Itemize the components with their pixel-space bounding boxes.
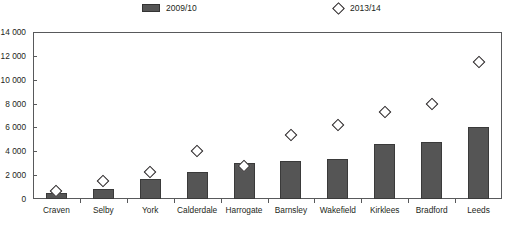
x-tick-label: Wakefield xyxy=(320,205,356,215)
diamond-marker-leeds xyxy=(472,55,485,68)
x-tick-mark xyxy=(127,199,128,203)
diamond-marker-icon xyxy=(332,2,345,15)
legend-entry-2009-10: 2009/10 xyxy=(142,4,197,13)
bar-bradford xyxy=(421,142,442,199)
x-tick-label: Leeds xyxy=(467,205,490,215)
y-tick-mark xyxy=(33,127,37,128)
bar-calderdale xyxy=(187,172,208,199)
y-axis-labels: 02 0004 0006 0008 00010 00012 00014 000 xyxy=(0,32,31,199)
y-tick-mark xyxy=(33,56,37,57)
x-tick-label: Harrogate xyxy=(226,205,263,215)
diamond-marker-wakefield xyxy=(331,119,344,132)
x-tick-label: York xyxy=(142,205,158,215)
diamond-marker-bradford xyxy=(425,98,438,111)
bar-barnsley xyxy=(280,161,301,199)
y-tick-label: 10 000 xyxy=(1,75,26,85)
y-tick-label: 4 000 xyxy=(5,146,26,156)
x-tick-label: Calderdale xyxy=(177,205,217,215)
y-tick-mark xyxy=(33,151,37,152)
diamond-marker-kirklees xyxy=(378,106,391,119)
diamond-marker-barnsley xyxy=(285,128,298,141)
y-tick-label: 8 000 xyxy=(5,99,26,109)
y-tick-mark xyxy=(33,175,37,176)
bar-wakefield xyxy=(327,159,348,199)
legend-label-2013-14: 2013/14 xyxy=(350,4,381,13)
bar-leeds xyxy=(468,127,489,199)
legend-entry-2013-14: 2013/14 xyxy=(333,4,381,13)
x-tick-mark xyxy=(361,199,362,203)
x-tick-label: Kirklees xyxy=(370,205,400,215)
legend-label-2009-10: 2009/10 xyxy=(166,4,197,13)
x-tick-mark xyxy=(314,199,315,203)
y-tick-label: 14 000 xyxy=(1,27,26,37)
x-tick-mark xyxy=(80,199,81,203)
diamond-marker-york xyxy=(144,165,157,178)
bar-swatch-icon xyxy=(142,4,160,12)
x-tick-mark xyxy=(455,199,456,203)
x-tick-mark xyxy=(408,199,409,203)
x-tick-label: Craven xyxy=(43,205,70,215)
chart-legend: 2009/10 2013/14 xyxy=(0,0,512,24)
x-tick-label: Selby xyxy=(93,205,114,215)
diamond-marker-calderdale xyxy=(191,145,204,158)
y-tick-mark xyxy=(33,80,37,81)
y-tick-label: 0 xyxy=(21,194,26,204)
plot-area xyxy=(33,32,502,199)
bar-york xyxy=(140,179,161,199)
bar-selby xyxy=(93,189,114,199)
x-tick-label: Bradford xyxy=(416,205,448,215)
y-tick-label: 12 000 xyxy=(1,51,26,61)
y-tick-label: 2 000 xyxy=(5,170,26,180)
x-tick-mark xyxy=(221,199,222,203)
x-tick-mark xyxy=(268,199,269,203)
x-tick-mark xyxy=(174,199,175,203)
x-axis-labels: CravenSelbyYorkCalderdaleHarrogateBarnsl… xyxy=(33,203,502,225)
bar-kirklees xyxy=(374,144,395,199)
diamond-marker-selby xyxy=(97,175,110,188)
y-tick-mark xyxy=(33,104,37,105)
y-tick-label: 6 000 xyxy=(5,122,26,132)
bar-chart: 2009/10 2013/14 02 0004 0006 0008 00010 … xyxy=(0,0,512,228)
x-tick-label: Barnsley xyxy=(275,205,307,215)
